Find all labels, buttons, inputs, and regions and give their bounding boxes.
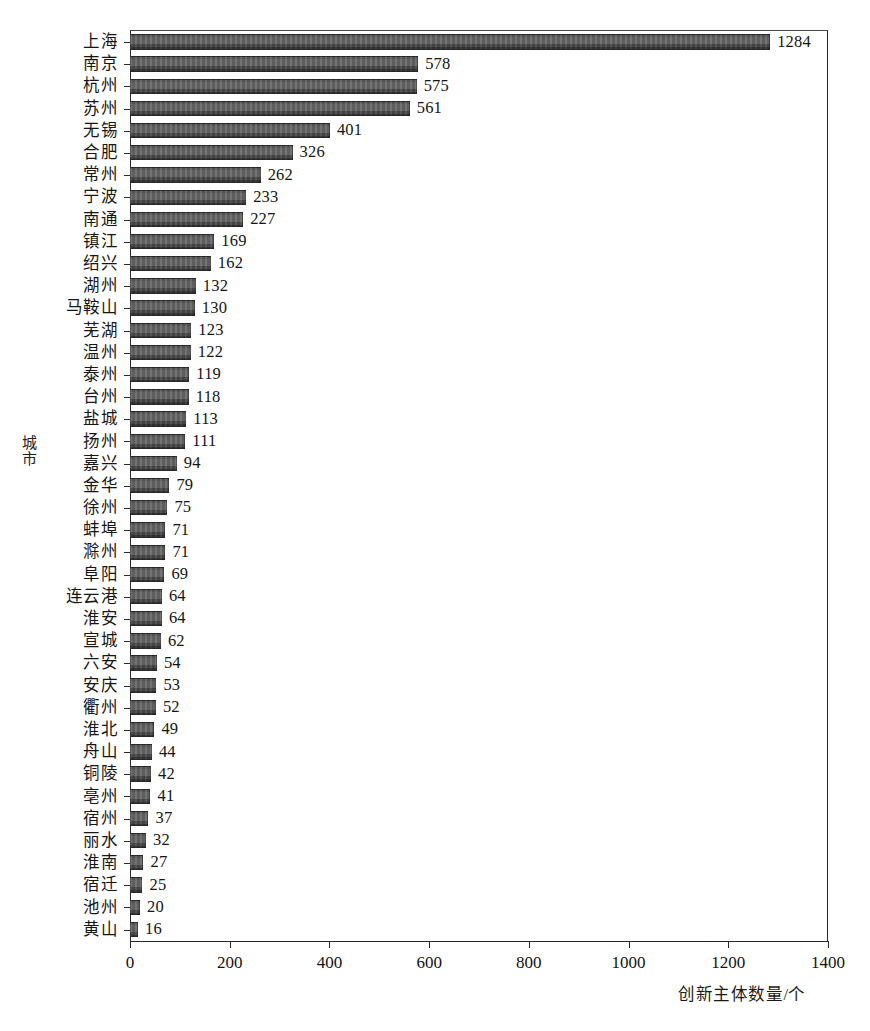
- bar-value-label: 113: [193, 408, 218, 430]
- bar: [130, 367, 189, 382]
- bar: [130, 389, 189, 404]
- bar-value-label: 401: [337, 119, 362, 141]
- bar: [130, 766, 151, 781]
- y-axis-label: 衢州: [83, 697, 118, 719]
- y-axis-label: 淮南: [83, 852, 118, 874]
- x-axis-tick-label: 400: [317, 951, 343, 975]
- y-axis-label: 铜陵: [83, 763, 118, 785]
- bar: [130, 789, 150, 804]
- bar-value-label: 25: [149, 874, 166, 896]
- bar: [130, 855, 143, 870]
- bar-row: 37: [130, 808, 828, 830]
- bar-value-label: 62: [168, 630, 185, 652]
- y-axis-label: 舟山: [83, 741, 118, 763]
- bar: [130, 633, 161, 648]
- bar-value-label: 118: [196, 386, 221, 408]
- bar-row: 561: [130, 98, 828, 120]
- y-axis-label: 芜湖: [83, 320, 118, 342]
- bar-value-label: 262: [268, 164, 293, 186]
- bar: [130, 522, 165, 537]
- y-axis-label: 泰州: [83, 364, 118, 386]
- y-axis-label: 杭州: [83, 75, 118, 97]
- x-axis-tick: [728, 941, 729, 948]
- bar-value-label: 53: [163, 674, 180, 696]
- bar: [130, 212, 243, 227]
- y-axis-label: 无锡: [83, 120, 118, 142]
- x-axis-ticks: [130, 941, 828, 951]
- bar-chart: 城市 上海南京杭州苏州无锡合肥常州宁波南通镇江绍兴湖州马鞍山芜湖温州泰州台州盐城…: [0, 0, 870, 1031]
- bar-row: 49: [130, 719, 828, 741]
- bar-value-label: 130: [202, 297, 227, 319]
- x-axis-tick-label: 0: [126, 951, 135, 975]
- y-axis-label: 宿州: [83, 808, 118, 830]
- bar: [130, 278, 196, 293]
- bar: [130, 500, 167, 515]
- y-axis-label: 丽水: [83, 830, 118, 852]
- bar-value-label: 71: [172, 541, 189, 563]
- y-axis-label: 淮北: [83, 719, 118, 741]
- bar: [130, 79, 417, 94]
- bar-row: 27: [130, 852, 828, 874]
- y-axis-label: 南京: [83, 53, 118, 75]
- bar-row: 41: [130, 785, 828, 807]
- bar-value-label: 41: [157, 785, 174, 807]
- bar: [130, 456, 177, 471]
- bar-value-label: 169: [221, 230, 246, 252]
- bar: [130, 167, 261, 182]
- bar: [130, 922, 138, 937]
- bar-value-label: 578: [425, 53, 450, 75]
- bar-row: 32: [130, 830, 828, 852]
- bar: [130, 434, 185, 449]
- x-axis-title: 创新主体数量/个: [0, 981, 828, 1005]
- y-axis-label: 宁波: [83, 186, 118, 208]
- y-axis-label: 池州: [83, 897, 118, 919]
- y-axis-label: 六安: [83, 652, 118, 674]
- x-axis-tick: [828, 941, 829, 948]
- bar-row: 162: [130, 253, 828, 275]
- bar-value-label: 16: [145, 918, 162, 940]
- y-axis-label: 马鞍山: [66, 297, 119, 319]
- bar-row: 575: [130, 75, 828, 97]
- bar-row: 44: [130, 741, 828, 763]
- bar-value-label: 111: [192, 430, 216, 452]
- bar-row: 119: [130, 364, 828, 386]
- bar-row: 401: [130, 120, 828, 142]
- bar: [130, 722, 154, 737]
- x-axis-tick-labels: 0200400600800100012001400: [0, 951, 870, 977]
- y-axis-label: 扬州: [83, 431, 118, 453]
- bar-row: 113: [130, 408, 828, 430]
- y-axis-label: 滁州: [83, 541, 118, 563]
- bar-row: 79: [130, 475, 828, 497]
- bar: [130, 900, 140, 915]
- bar-value-label: 32: [153, 829, 170, 851]
- bar: [130, 545, 165, 560]
- y-axis-label: 宿迁: [83, 874, 118, 896]
- bar: [130, 877, 142, 892]
- bar-row: 64: [130, 608, 828, 630]
- bar: [130, 34, 770, 49]
- y-axis-label: 盐城: [83, 408, 118, 430]
- bar: [130, 234, 214, 249]
- bar-row: 123: [130, 319, 828, 341]
- bar-row: 71: [130, 541, 828, 563]
- bar-row: 75: [130, 497, 828, 519]
- bar-value-label: 575: [424, 75, 449, 97]
- y-axis-label: 苏州: [83, 98, 118, 120]
- bar-series: 1284578575561401326262233227169162132130…: [130, 31, 828, 941]
- y-axis-label: 镇江: [83, 231, 118, 253]
- bar-row: 262: [130, 164, 828, 186]
- x-axis-tick: [329, 941, 330, 948]
- bar-value-label: 49: [161, 718, 178, 740]
- y-axis-label: 黄山: [83, 919, 118, 941]
- bar-value-label: 123: [198, 319, 223, 341]
- bar: [130, 256, 211, 271]
- bar: [130, 478, 169, 493]
- bar-value-label: 20: [147, 896, 164, 918]
- bar-row: 122: [130, 342, 828, 364]
- bar-row: 578: [130, 53, 828, 75]
- x-axis-tick-label: 200: [217, 951, 243, 975]
- x-axis-tick: [130, 941, 131, 948]
- x-axis-tick: [429, 941, 430, 948]
- bar-value-label: 75: [174, 496, 191, 518]
- bar: [130, 345, 191, 360]
